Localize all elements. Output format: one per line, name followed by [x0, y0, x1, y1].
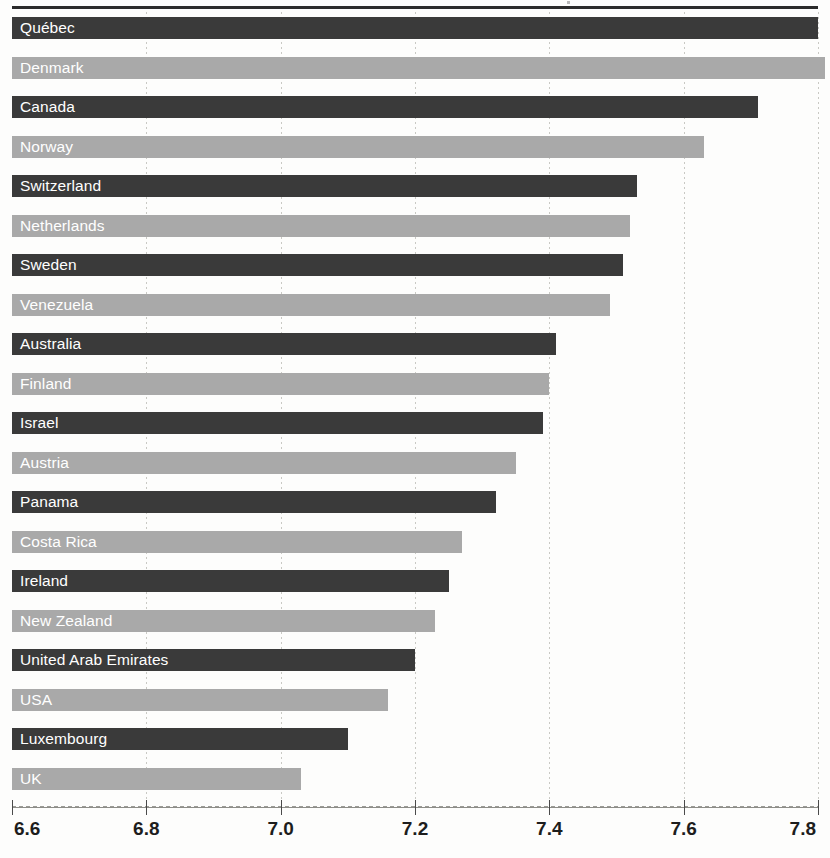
bar-category-label: Sweden [20, 254, 77, 276]
bar-row[interactable]: Ireland [0, 570, 830, 592]
x-axis-tick [818, 800, 819, 815]
x-axis-tick-label: 7.4 [536, 818, 562, 840]
bar-row[interactable]: Australia [0, 333, 830, 355]
bar-category-label: United Arab Emirates [20, 649, 168, 671]
bar[interactable] [12, 689, 388, 711]
bar-row[interactable]: Israel [0, 412, 830, 434]
bar-category-label: Denmark [20, 57, 84, 79]
x-axis-tick-label: 7.6 [670, 818, 696, 840]
bar-row[interactable]: Switzerland [0, 175, 830, 197]
x-axis-tick-label: 6.8 [133, 818, 159, 840]
x-axis-tick [415, 800, 416, 815]
bar[interactable] [12, 333, 556, 355]
bar[interactable] [12, 96, 758, 118]
bar[interactable] [12, 373, 549, 395]
bar-category-label: USA [20, 689, 52, 711]
bar-category-label: Ireland [20, 570, 68, 592]
bar-row[interactable]: Canada [0, 96, 830, 118]
bar-row[interactable]: New Zealand [0, 610, 830, 632]
x-axis-tick-label: 7.0 [267, 818, 293, 840]
bar-category-label: Costa Rica [20, 531, 97, 553]
x-axis-tick [549, 800, 550, 815]
bar-row[interactable]: Québec [0, 17, 830, 39]
bar-row[interactable]: Norway [0, 136, 830, 158]
bar-row[interactable]: UK [0, 768, 830, 790]
bar[interactable] [12, 57, 825, 79]
bar-category-label: Norway [20, 136, 73, 158]
bar[interactable] [12, 17, 818, 39]
bar-category-label: Netherlands [20, 215, 105, 237]
bar-category-label: Australia [20, 333, 81, 355]
x-axis-tick-label: 7.2 [402, 818, 428, 840]
bar[interactable] [12, 136, 704, 158]
x-axis-tick-label: 7.8 [790, 818, 816, 840]
bar-category-label: Venezuela [20, 294, 93, 316]
bar[interactable] [12, 768, 301, 790]
bar-category-label: UK [20, 768, 42, 790]
bar[interactable] [12, 452, 516, 474]
bar-row[interactable]: Finland [0, 373, 830, 395]
bar[interactable] [12, 294, 610, 316]
bar-row[interactable]: Netherlands [0, 215, 830, 237]
bar-category-label: Finland [20, 373, 72, 395]
bar[interactable] [12, 491, 496, 513]
bar-category-label: Austria [20, 452, 69, 474]
bar-row[interactable]: United Arab Emirates [0, 649, 830, 671]
bar[interactable] [12, 570, 449, 592]
bar-category-label: Switzerland [20, 175, 101, 197]
bar-row[interactable]: Luxembourg [0, 728, 830, 750]
bar-row[interactable]: Denmark [0, 57, 830, 79]
x-axis-tick [12, 800, 13, 815]
x-axis-tick [684, 800, 685, 815]
bar-row[interactable]: Austria [0, 452, 830, 474]
bar-category-label: New Zealand [20, 610, 112, 632]
bar-row[interactable]: USA [0, 689, 830, 711]
bar[interactable] [12, 412, 543, 434]
bar-category-label: Israel [20, 412, 59, 434]
bar-category-label: Canada [20, 96, 75, 118]
bar-category-label: Luxembourg [20, 728, 107, 750]
bar-chart: QuébecDenmarkCanadaNorwaySwitzerlandNeth… [0, 0, 830, 858]
bar-row[interactable]: Sweden [0, 254, 830, 276]
x-axis-tick [146, 800, 147, 815]
bar[interactable] [12, 175, 637, 197]
plot-area: QuébecDenmarkCanadaNorwaySwitzerlandNeth… [0, 0, 830, 808]
bar[interactable] [12, 254, 623, 276]
x-axis-tick-label: 6.6 [14, 818, 40, 840]
bar-row[interactable]: Costa Rica [0, 531, 830, 553]
bar-category-label: Québec [20, 17, 75, 39]
x-axis-tick [281, 800, 282, 815]
bar-row[interactable]: Panama [0, 491, 830, 513]
bar-category-label: Panama [20, 491, 78, 513]
bar-row[interactable]: Venezuela [0, 294, 830, 316]
